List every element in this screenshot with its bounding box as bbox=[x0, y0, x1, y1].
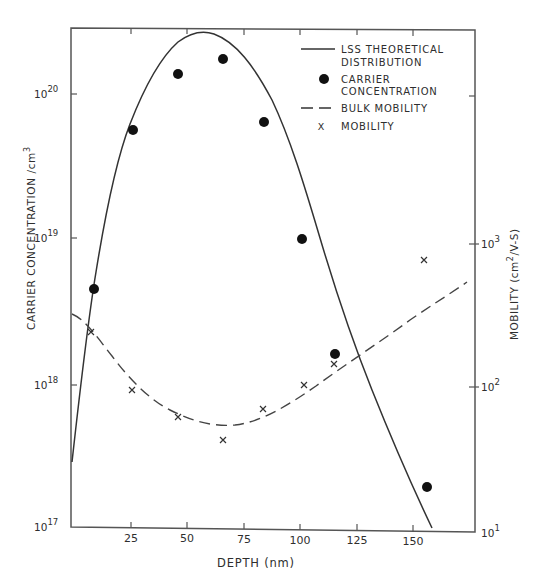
tick-exp: 1 bbox=[494, 523, 499, 533]
mobility-point bbox=[129, 387, 135, 393]
x-tick-label: 150 bbox=[403, 535, 424, 548]
tick-base: 10 bbox=[34, 379, 47, 391]
legend-carrier-label: CARRIER bbox=[341, 74, 391, 85]
carrier-point bbox=[173, 69, 183, 79]
x-tick-labels: 25 50 75 100 125 150 bbox=[124, 532, 424, 548]
x-tick-label: 125 bbox=[347, 534, 368, 547]
carrier-point bbox=[297, 234, 307, 244]
legend-filled-circle-icon bbox=[319, 74, 329, 84]
legend-lss-label: LSS THEORETICAL bbox=[341, 44, 444, 55]
x-axis-label: DEPTH (nm) bbox=[217, 556, 295, 570]
x-tick-label: 25 bbox=[124, 532, 138, 545]
tick-base: 10 bbox=[481, 381, 494, 393]
carrier-point bbox=[128, 125, 138, 135]
right-tick-labels: 103 102 101 bbox=[481, 234, 500, 539]
svg-text:101: 101 bbox=[481, 523, 500, 539]
svg-text:1019: 1019 bbox=[34, 228, 58, 244]
mobility-point bbox=[301, 382, 307, 388]
tick-exp: 3 bbox=[494, 234, 499, 244]
tick-base: 10 bbox=[481, 527, 494, 539]
x-tick-label: 50 bbox=[180, 532, 194, 545]
left-axis-label-text: CARRIER CONCENTRATION /cm bbox=[25, 152, 37, 330]
tick-base: 10 bbox=[34, 88, 47, 100]
tick-exp: 19 bbox=[47, 228, 58, 238]
left-axis-label-sup: 3 bbox=[23, 146, 32, 152]
x-tick-label: 75 bbox=[237, 533, 251, 546]
x-tick-label: 100 bbox=[290, 534, 311, 547]
carrier-point bbox=[218, 54, 228, 64]
mobility-point bbox=[421, 257, 427, 263]
svg-text:103: 103 bbox=[481, 234, 500, 250]
legend-lss-label-2: DISTRIBUTION bbox=[341, 57, 422, 68]
right-axis-ticks bbox=[469, 96, 479, 387]
legend-mobility-label: MOBILITY bbox=[341, 121, 395, 132]
left-axis-ticks bbox=[71, 94, 77, 385]
chart: 25 50 75 100 125 150 DEPTH (nm) 1020 101… bbox=[0, 0, 544, 587]
right-axis-label-text: MOBILITY (cm bbox=[508, 261, 520, 340]
tick-exp: 17 bbox=[47, 517, 58, 527]
left-axis-label: CARRIER CONCENTRATION /cm3 bbox=[23, 146, 37, 330]
carrier-point bbox=[422, 482, 432, 492]
mobility-point bbox=[220, 437, 226, 443]
carrier-point bbox=[330, 349, 340, 359]
right-axis-label-tail: /V-S) bbox=[508, 228, 520, 255]
carrier-point bbox=[89, 284, 99, 294]
bulk-mobility-curve bbox=[72, 282, 467, 425]
legend-x-marker-icon: X bbox=[318, 121, 325, 132]
mobility-point bbox=[331, 361, 337, 367]
tick-base: 10 bbox=[481, 238, 494, 250]
svg-text:1020: 1020 bbox=[34, 84, 58, 100]
mobility-point bbox=[175, 414, 181, 420]
left-tick-labels: 1020 1019 1018 1017 bbox=[34, 84, 58, 533]
mobility-points bbox=[88, 257, 427, 443]
tick-exp: 18 bbox=[47, 375, 58, 385]
svg-text:1018: 1018 bbox=[34, 375, 58, 391]
carrier-point bbox=[259, 117, 269, 127]
right-axis-label: MOBILITY (cm2/V-S) bbox=[506, 228, 520, 340]
legend-carrier-label-2: CONCENTRATION bbox=[341, 86, 438, 97]
legend-bulk-label: BULK MOBILITY bbox=[341, 103, 428, 114]
legend: LSS THEORETICAL DISTRIBUTION CARRIER CON… bbox=[301, 44, 444, 132]
carrier-concentration-points bbox=[89, 54, 432, 492]
tick-base: 10 bbox=[34, 521, 47, 533]
mobility-point bbox=[260, 406, 266, 412]
tick-exp: 20 bbox=[47, 84, 58, 94]
tick-exp: 2 bbox=[494, 377, 499, 387]
svg-text:102: 102 bbox=[481, 377, 500, 393]
svg-text:1017: 1017 bbox=[34, 517, 58, 533]
